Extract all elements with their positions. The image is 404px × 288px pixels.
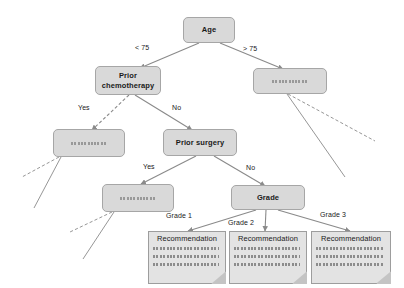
edge-label-surgery-yes: Yes <box>143 163 155 170</box>
recommendation-card-grade-3[interactable]: Recommendation <box>311 231 391 284</box>
dangling-edge-surgery-yes-a <box>70 212 112 232</box>
edge-surgery-yes <box>141 156 196 184</box>
recommendation-body-lines <box>153 247 219 271</box>
edge-chemotherapy-yes <box>92 95 129 130</box>
recommendation-card-grade-1[interactable]: Recommendation <box>148 231 226 284</box>
edge-surgery-no <box>214 156 265 186</box>
dangling-edge-chemo-yes-b <box>34 157 61 208</box>
recommendation-title: Recommendation <box>229 234 307 243</box>
edge-label-chemotherapy-yes: Yes <box>78 104 90 111</box>
placeholder-text-line <box>316 263 384 266</box>
recommendation-card-grade-2[interactable]: Recommendation <box>229 231 307 284</box>
edge-label-age-greater-than-75: > 75 <box>243 45 257 52</box>
recommendation-body-lines <box>234 247 300 271</box>
placeholder-text-line <box>316 255 384 258</box>
node-surgery-yes-result[interactable] <box>102 184 174 212</box>
node-prior-surgery[interactable]: Prior surgery <box>163 129 237 156</box>
dangling-edge-over75-b <box>287 94 345 177</box>
edge-label-chemotherapy-no: No <box>172 104 181 111</box>
placeholder-text-line <box>153 255 219 258</box>
dangling-edge-chemo-yes-a <box>22 157 59 177</box>
edge-chemotherapy-no <box>135 95 192 130</box>
dangling-edge-surgery-yes-b <box>83 212 114 259</box>
node-grade-label: Grade <box>255 193 281 202</box>
placeholder-text-line <box>234 247 300 250</box>
redacted-text-placeholder <box>120 197 156 200</box>
recommendation-title: Recommendation <box>311 234 391 243</box>
node-prior-chemotherapy-label-line1: Prior <box>117 71 139 80</box>
node-prior-surgery-label: Prior surgery <box>174 138 226 147</box>
redacted-text-placeholder <box>71 142 107 145</box>
placeholder-text-line <box>153 247 219 250</box>
redacted-text-placeholder <box>272 80 308 83</box>
node-age-over-75-result[interactable] <box>253 68 327 94</box>
placeholder-text-line <box>153 263 219 266</box>
decision-tree-diagram: Age Prior chemotherapy Prior surgery Gra… <box>0 0 404 288</box>
node-prior-chemotherapy[interactable]: Prior chemotherapy <box>95 66 161 95</box>
edge-label-age-less-than-75: < 75 <box>135 44 149 51</box>
edge-grade2 <box>265 210 266 231</box>
edge-label-grade-1: Grade 1 <box>166 212 192 219</box>
placeholder-text-line <box>316 247 384 250</box>
edge-label-grade-2: Grade 2 <box>228 219 254 226</box>
node-prior-chemotherapy-label-line2: chemotherapy <box>100 81 156 90</box>
node-age[interactable]: Age <box>183 17 235 43</box>
node-age-label: Age <box>200 25 218 34</box>
recommendation-body-lines <box>316 247 384 271</box>
node-grade[interactable]: Grade <box>231 185 305 210</box>
edge-label-surgery-no: No <box>246 164 255 171</box>
edge-label-grade-3: Grade 3 <box>320 211 346 218</box>
node-chemotherapy-yes-result[interactable] <box>53 129 125 157</box>
placeholder-text-line <box>234 255 300 258</box>
dangling-edge-over75-a <box>288 94 375 141</box>
recommendation-title: Recommendation <box>148 234 226 243</box>
placeholder-text-line <box>234 263 300 266</box>
